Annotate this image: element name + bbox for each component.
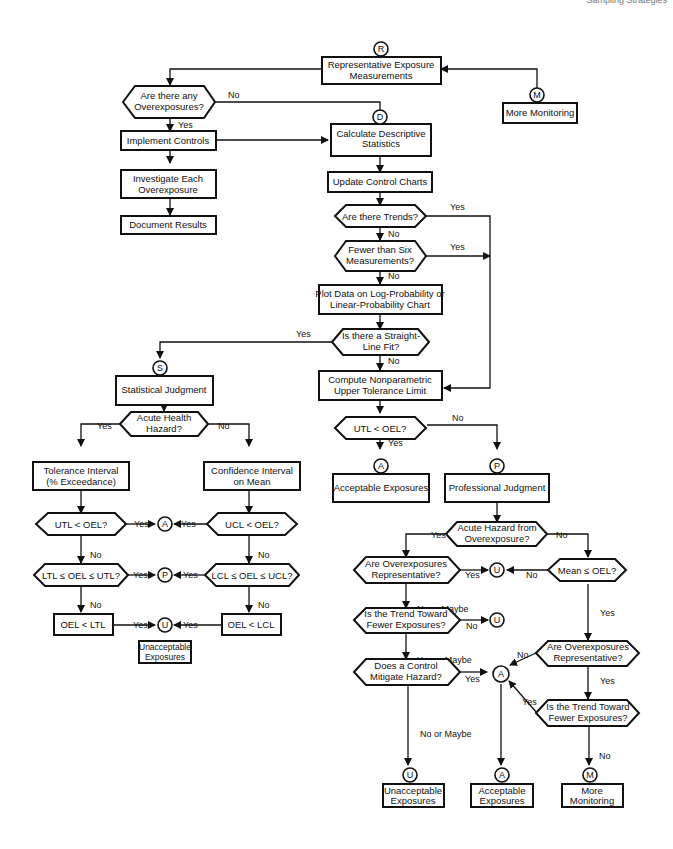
label-no: No [90,600,102,610]
node-trend-fewer-right: Is the Trend Toward Fewer Exposures? [536,700,639,726]
label-no: No [388,271,400,281]
label-yes: Yes [450,242,465,252]
svg-text:Is there a Straight-: Is there a Straight- [342,330,420,341]
label-yes: Yes [296,329,311,339]
node-confidence-interval: Confidence Interval on Mean [204,462,300,490]
label-yes: Yes [183,570,198,580]
svg-text:Overexposure?: Overexposure? [465,533,530,544]
node-calculate-descriptive: Calculate Descriptive Statistics [331,124,431,156]
connector-a-stat: A [158,517,172,531]
svg-text:OEL < LCL: OEL < LCL [228,619,275,630]
svg-text:Measurements: Measurements [350,70,413,81]
connector-p-main: P [490,459,504,473]
svg-text:P: P [494,461,500,471]
label-no: No [258,600,270,610]
connector-p-stat: P [158,568,172,582]
connector-a-bottom: A [495,768,509,782]
svg-text:Is the Trend Toward: Is the Trend Toward [546,701,629,712]
connector-d: D [373,110,387,124]
svg-text:A: A [162,519,168,529]
svg-text:Hazard?: Hazard? [146,423,182,434]
svg-text:Tolerance Interval: Tolerance Interval [44,465,119,476]
svg-text:Acute Health: Acute Health [137,412,191,423]
svg-text:S: S [157,363,163,373]
label-no: No [556,530,568,540]
svg-text:Are Overexposures: Are Overexposures [365,558,447,569]
svg-text:Fewer than Six: Fewer than Six [348,244,412,255]
svg-text:Is the Trend Toward: Is the Trend Toward [364,608,447,619]
svg-text:Statistics: Statistics [362,138,400,149]
svg-text:LCL ≤ OEL ≤ UCL?: LCL ≤ OEL ≤ UCL? [211,570,292,581]
svg-text:Mitigate Hazard?: Mitigate Hazard? [370,671,442,682]
label-yes: Yes [450,202,465,212]
label-yes: Yes [431,530,446,540]
svg-text:Confidence Interval: Confidence Interval [211,465,293,476]
node-more-monitoring-bottom: More Monitoring [562,784,623,807]
svg-text:M: M [586,770,594,780]
svg-text:Plot Data on Log-Probability o: Plot Data on Log-Probability or [315,288,444,299]
svg-text:Are there any: Are there any [140,90,197,101]
node-utl-less-oel-main: UTL < OEL? [335,417,426,439]
node-oel-less-lcl: OEL < LCL [222,614,281,635]
svg-text:A: A [498,669,504,679]
svg-text:U: U [494,615,501,625]
connector-s: S [153,361,167,375]
node-over-rep-right: Are Overexposures Representative? [536,641,639,666]
node-unacceptable-left: Unacceptable Exposures [139,641,191,663]
svg-text:Overexposures?: Overexposures? [134,101,204,112]
connector-u-bottom: U [403,768,417,782]
svg-text:Professional Judgment: Professional Judgment [449,482,546,493]
svg-text:Unacceptable: Unacceptable [139,642,191,652]
node-compute-utl: Compute Nonparametric Upper Tolerance Li… [319,371,442,400]
svg-text:More Monitoring: More Monitoring [506,107,575,118]
node-any-overexposures: Are there any Overexposures? [123,86,215,118]
node-trend-fewer-left: Is the Trend Toward Fewer Exposures? [354,608,460,633]
node-acceptable-bottom: Acceptable Exposures [471,784,533,807]
svg-text:R: R [378,44,385,54]
connector-a-prof: A [493,666,509,682]
svg-text:OEL < LTL: OEL < LTL [60,619,105,630]
label-no: No [526,570,538,580]
svg-text:Linear-Probability Chart: Linear-Probability Chart [330,299,430,310]
svg-text:UTL < OEL?: UTL < OEL? [55,519,108,530]
svg-text:Document Results: Document Results [129,219,207,230]
connector-a-main: A [374,459,388,473]
svg-text:U: U [407,770,414,780]
label-yes: Yes [600,676,615,686]
svg-text:Overexposure: Overexposure [138,184,198,195]
svg-text:Line Fit?: Line Fit? [363,341,399,352]
node-representative-exposure: Representative Exposure Measurements [322,57,441,84]
node-more-monitoring-top: More Monitoring [503,103,577,123]
svg-text:(% Exceedance): (% Exceedance) [46,476,116,487]
connector-u-stat: U [158,618,172,632]
label-yes: Yes [522,697,537,707]
svg-text:U: U [162,620,169,630]
connector-u-mid: U [490,563,504,577]
label-no: No [388,229,400,239]
svg-text:U: U [494,565,501,575]
label-no: No [218,421,230,431]
node-unacceptable-bottom: Unacceptable Exposures [383,784,444,807]
label-no: No [228,90,240,100]
node-are-there-trends: Are there Trends? [335,205,426,227]
node-control-mitigate: Does a Control Mitigate Hazard? [354,659,460,685]
svg-text:Update Control Charts: Update Control Charts [333,176,428,187]
svg-text:Implement Controls: Implement Controls [127,135,210,146]
node-statistical-judgment: Statistical Judgment [116,376,213,405]
svg-text:Acute Hazard from: Acute Hazard from [457,522,536,533]
node-tolerance-interval: Tolerance Interval (% Exceedance) [33,462,129,490]
connector-u-trend: U [490,613,504,627]
label-no: No [599,751,611,761]
label-no: No [388,356,400,366]
connector-r: R [374,42,388,56]
node-over-rep-left: Are Overexposures Representative? [354,557,460,583]
svg-text:Monitoring: Monitoring [570,795,614,806]
svg-text:Investigate Each: Investigate Each [133,173,203,184]
svg-text:Exposures: Exposures [145,652,185,662]
svg-text:Compute Nonparametric: Compute Nonparametric [328,374,432,385]
node-plot-data: Plot Data on Log-Probability or Linear-P… [315,285,444,314]
label-no: No [466,621,478,631]
node-acceptable-exposures-main: Acceptable Exposures [333,474,429,502]
svg-text:UCL < OEL?: UCL < OEL? [225,519,279,530]
node-straight-line-fit: Is there a Straight- Line Fit? [332,329,429,355]
